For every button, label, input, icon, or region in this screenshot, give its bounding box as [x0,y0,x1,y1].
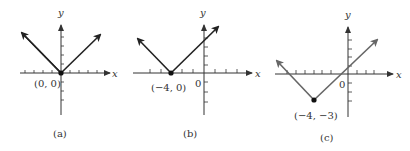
y-ticks [204,38,208,102]
panel-a: y x (0, 0) (a) [20,7,118,139]
x-ticks [287,70,374,74]
right-ray [171,27,218,73]
panel-caption: (b) [183,128,197,139]
x-axis-label: x [255,68,261,79]
x-ticks [150,69,237,73]
left-ray [138,39,171,73]
panel-b: y x 0 (−4, 0) (b) [133,7,261,139]
vertex-point [311,97,316,102]
panel-caption: (a) [53,128,67,139]
left-ray [22,33,61,73]
vertex-label: (−4, −3) [294,110,338,121]
y-axis-label: y [199,7,206,18]
left-ray [277,61,314,100]
y-axis-label: y [344,9,351,20]
vertex-point [58,70,63,75]
y-axis-label: y [57,7,64,18]
y-ticks [348,40,352,101]
right-ray [61,35,100,73]
x-axis-label: x [112,68,118,79]
panel-caption: (c) [320,132,334,143]
figure-canvas: y x (0, 0) (a) y x 0 (−4, 0) (b) [0,0,410,151]
vertex-label: (0, 0) [34,78,61,89]
panel-c: y x 0 (−4, −3) (c) [275,9,402,143]
right-ray [314,40,377,100]
origin-label: 0 [195,78,201,89]
x-axis-label: x [396,69,402,80]
vertex-point [168,70,173,75]
vertex-label: (−4, 0) [151,82,186,93]
origin-label: 0 [339,79,345,90]
